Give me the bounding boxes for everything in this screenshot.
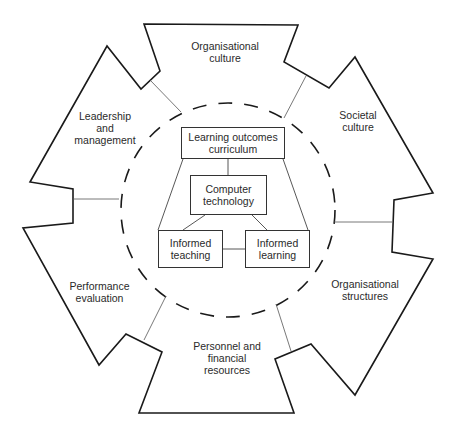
box-learning-outcomes: Learning outcomes curriculum (181, 127, 285, 159)
label-personnel-financial: Personnel and financial resources (172, 340, 282, 376)
label-leadership-management: Leadership and management (60, 110, 150, 146)
label-societal-culture: Societal culture (318, 109, 398, 133)
label-organisational-structures: Organisational structures (310, 278, 420, 302)
label-performance-evaluation: Performance evaluation (52, 280, 147, 304)
box-informed-teaching: Informed teaching (158, 230, 223, 268)
box-informed-learning: Informed learning (245, 230, 310, 268)
box-computer-technology: Computer technology (190, 175, 267, 215)
label-organisational-culture: Organisational culture (170, 40, 280, 64)
